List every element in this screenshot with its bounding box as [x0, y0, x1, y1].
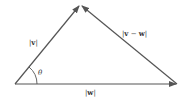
- label-v-minus-w: |v − w|: [122, 29, 147, 38]
- label-v: |v|: [29, 38, 38, 47]
- vector-diagram: θ |v| |w| |v − w|: [0, 0, 184, 102]
- label-w: |w|: [85, 88, 96, 97]
- vector-v-minus-w: [82, 6, 177, 84]
- angle-arc: [29, 67, 37, 84]
- vector-v: [15, 6, 79, 84]
- angle-theta-label: θ: [38, 69, 43, 77]
